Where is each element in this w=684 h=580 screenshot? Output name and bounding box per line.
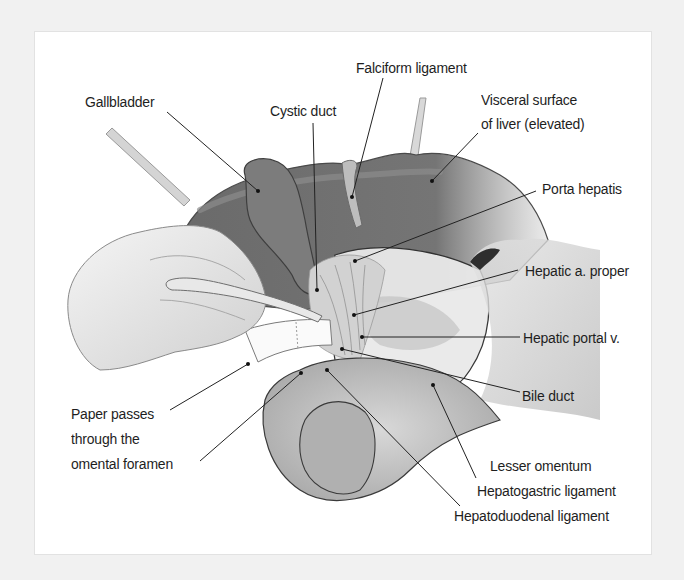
hand — [68, 226, 266, 370]
retractor-left — [106, 128, 190, 206]
label-hepatic-portal-vein: Hepatic portal v. — [523, 328, 620, 347]
label-bile-duct: Bile duct — [522, 386, 574, 405]
label-hepatoduodenal-ligament: Hepatoduodenal ligament — [454, 506, 609, 525]
label-paper-line1: Paper passes — [71, 404, 154, 423]
label-cystic-duct: Cystic duct — [270, 101, 336, 120]
label-visceral-surface-line1: Visceral surface — [481, 90, 577, 109]
label-hepatogastric-ligament: Hepatogastric ligament — [477, 481, 616, 500]
label-lesser-omentum: Lesser omentum — [490, 456, 591, 475]
retractor-right — [410, 98, 426, 156]
label-porta-hepatis: Porta hepatis — [542, 179, 622, 198]
label-hepatic-artery-proper: Hepatic a. proper — [525, 261, 629, 280]
label-visceral-surface-line2: of liver (elevated) — [481, 114, 585, 133]
paper-strip — [245, 319, 332, 362]
label-falciform-ligament: Falciform ligament — [356, 58, 467, 77]
label-paper-line2: through the — [71, 429, 140, 448]
duodenum — [263, 358, 500, 500]
label-paper-line3: omental foramen — [71, 454, 173, 473]
label-gallbladder: Gallbladder — [85, 92, 154, 111]
